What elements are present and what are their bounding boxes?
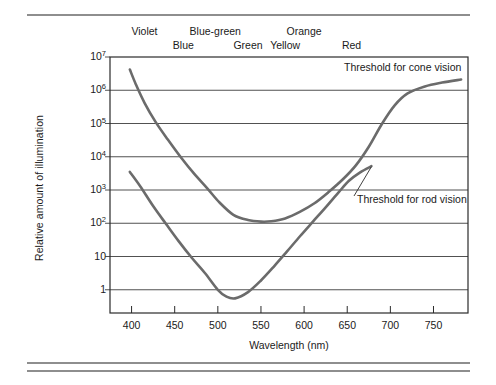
figure-container: Relative amount of illumination Waveleng…	[0, 0, 496, 385]
annotation-rod-threshold: Threshold for rod vision	[357, 193, 467, 205]
x-axis-ticks	[132, 306, 434, 313]
annotation-cone-threshold: Threshold for cone vision	[344, 61, 461, 73]
data-curves	[130, 70, 461, 299]
plot-frame	[110, 57, 468, 313]
